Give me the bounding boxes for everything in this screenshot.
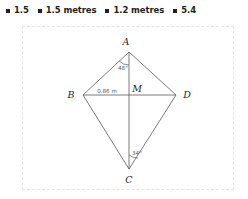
vertex-label-a: A	[122, 36, 130, 47]
answer-option-4[interactable]: 5.4	[173, 6, 196, 15]
side-bc	[83, 95, 129, 169]
square-bullet-icon	[6, 9, 10, 13]
answer-option-1[interactable]: 1.5	[6, 6, 29, 15]
angle-label-a: 48°	[118, 65, 128, 71]
figure-container: A B D C M 48° 34° 0.86 m	[22, 26, 234, 190]
answer-option-2[interactable]: 1.5 metres	[38, 6, 97, 15]
answer-option-label: 1.5	[14, 6, 29, 15]
answer-option-3[interactable]: 1.2 metres	[105, 6, 164, 15]
square-bullet-icon	[38, 9, 42, 13]
vertex-label-d: D	[182, 89, 191, 100]
measurement-label-bm: 0.86 m	[97, 88, 117, 94]
vertex-label-b: B	[67, 89, 75, 100]
square-bullet-icon	[105, 9, 109, 13]
angle-label-c: 34°	[132, 150, 142, 156]
answer-option-label: 1.5 metres	[46, 6, 97, 15]
vertex-label-c: C	[125, 174, 133, 185]
vertex-label-m: M	[131, 83, 142, 94]
answer-options-row: 1.5 1.5 metres 1.2 metres 5.4	[0, 0, 248, 16]
answer-option-label: 1.2 metres	[113, 6, 164, 15]
answer-option-label: 5.4	[181, 6, 196, 15]
square-bullet-icon	[173, 9, 177, 13]
rhombus-diagram: A B D C M 48° 34° 0.86 m	[23, 27, 235, 191]
